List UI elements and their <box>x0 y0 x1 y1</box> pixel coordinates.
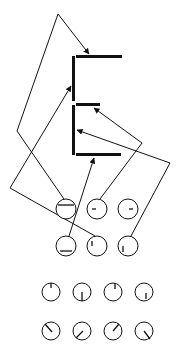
dial-icon-r1c1 <box>56 199 76 219</box>
e-shape-glyph <box>74 56 123 155</box>
dial-icon-r1c2 <box>87 199 107 219</box>
dial-icon-r4c4 <box>135 322 153 340</box>
dial-circles <box>42 199 153 340</box>
dial-icon-r1c3 <box>118 199 138 219</box>
dial-icon-r3c3 <box>104 283 122 301</box>
connector-circle6-to-lower-stem <box>77 130 170 236</box>
diagram-canvas <box>0 0 176 353</box>
dial-icon-r3c4 <box>135 283 153 301</box>
dial-icon-r3c2 <box>73 283 91 301</box>
dial-icon-r4c1 <box>42 322 60 340</box>
connector-circle5-to-upper-stem <box>10 86 95 236</box>
dial-icon-r4c3 <box>104 322 122 340</box>
connector-circle4-to-bottom-bar <box>69 158 94 236</box>
dial-icon-r3c1 <box>42 283 60 301</box>
dial-icon-r4c2 <box>73 322 91 340</box>
dial-icon-r2c1 <box>56 236 76 256</box>
dial-icon-r2c2 <box>87 236 107 256</box>
connector-circle1-to-top-bar <box>17 14 89 199</box>
dial-icon-r2c3 <box>118 236 138 256</box>
